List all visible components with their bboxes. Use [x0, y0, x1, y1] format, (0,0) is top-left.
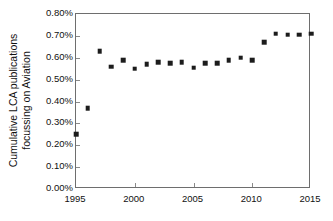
x-axis-tick-label: 2005	[173, 194, 213, 204]
chart-figure: Cumulative LCA publications focussing on…	[0, 0, 333, 221]
x-axis-tick-label: 2000	[114, 194, 154, 204]
x-axis-tick-labels: 19952000200520102015	[0, 0, 333, 221]
x-axis-tick-label: 2015	[290, 194, 330, 204]
x-axis-tick-label: 1995	[55, 194, 95, 204]
x-axis-tick-label: 2010	[231, 194, 271, 204]
